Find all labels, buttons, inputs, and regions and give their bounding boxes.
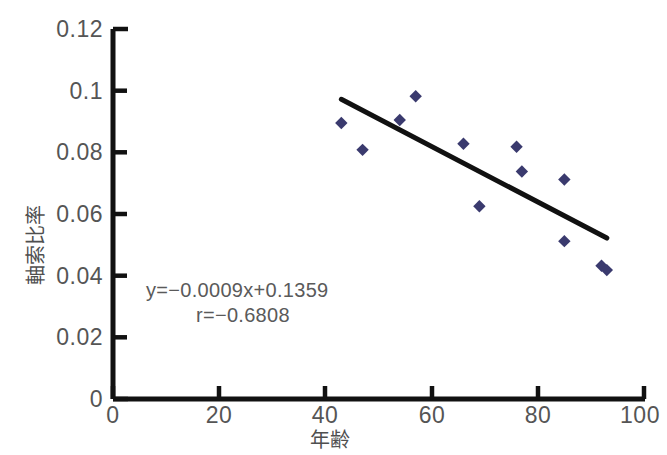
y-tick-label-5: 0.1 bbox=[70, 78, 103, 104]
y-tick-label-3: 0.06 bbox=[56, 201, 103, 227]
chart-canvas: 0.12 0.1 0.08 0.06 0.04 0.02 0 軸索比率 0 20… bbox=[0, 0, 667, 455]
annotation-equation: y=−0.0009x+0.1359 bbox=[146, 279, 328, 301]
scatter-chart: 0.12 0.1 0.08 0.06 0.04 0.02 0 軸索比率 0 20… bbox=[0, 0, 667, 455]
y-axis-title: 軸索比率 bbox=[25, 205, 47, 285]
y-tick-label-2: 0.04 bbox=[56, 263, 103, 289]
x-tick-label-2: 40 bbox=[312, 402, 339, 428]
y-tick-label-1: 0.02 bbox=[56, 324, 103, 350]
y-tick-label-0: 0 bbox=[90, 386, 103, 412]
x-tick-label-0: 0 bbox=[106, 402, 119, 428]
x-tick-label-4: 80 bbox=[525, 402, 552, 428]
x-tick-label-3: 60 bbox=[419, 402, 446, 428]
y-tick-label-4: 0.08 bbox=[56, 139, 103, 165]
y-tick-label-6: 0.12 bbox=[56, 16, 103, 42]
x-tick-label-1: 20 bbox=[206, 402, 233, 428]
annotation-correlation: r=−0.6808 bbox=[196, 304, 290, 326]
x-axis-title: 年齢 bbox=[310, 429, 350, 451]
x-tick-label-5: 100 bbox=[620, 402, 660, 428]
